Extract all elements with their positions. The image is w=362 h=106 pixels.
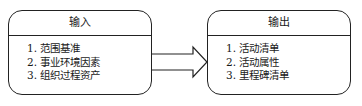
input-box: 输入 1. 范围基准 2. 事业环境因素 3. 组织过程资产 [8, 10, 152, 95]
input-item: 3. 组织过程资产 [27, 69, 151, 83]
output-title: 输出 [208, 11, 350, 36]
input-item: 1. 范围基准 [27, 42, 151, 56]
input-list: 1. 范围基准 2. 事业环境因素 3. 组织过程资产 [9, 36, 151, 83]
output-box: 输出 1. 活动清单 2. 活动属性 3. 里程碑清单 [207, 10, 351, 95]
output-item: 3. 里程碑清单 [226, 69, 350, 83]
input-title: 输入 [9, 11, 151, 36]
output-item: 1. 活动清单 [226, 42, 350, 56]
output-item: 2. 活动属性 [226, 56, 350, 70]
output-list: 1. 活动清单 2. 活动属性 3. 里程碑清单 [208, 36, 350, 83]
input-item: 2. 事业环境因素 [27, 56, 151, 70]
